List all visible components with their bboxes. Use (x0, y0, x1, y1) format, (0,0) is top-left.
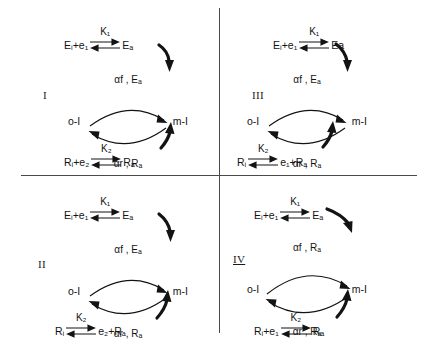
bottom-reaction-lhs: Rᵢ+e₁ (254, 326, 279, 337)
bottom-reaction-I: Rᵢ+e₂K₂Rₐ (64, 155, 135, 169)
rate-constant-label: K₂ (101, 144, 112, 154)
bottom-reaction-III: RᵢK₂e₁+Rₐ (237, 155, 307, 169)
cycle-I: αf , Eₐ o-I m-I αr , Rₐ (68, 78, 188, 164)
equilibrium-arrow-icon: K₂ (90, 155, 122, 169)
equilibrium-arrow-icon: K₂ (280, 324, 312, 338)
quadrant-IV: IV Eᵢ+e₁K₁Eₐ αf , Rₐ o-I m-I αr , Rₐ (219, 176, 437, 351)
bottom-reaction-rhs: e₁+Rₐ (280, 157, 307, 168)
equilibrium-arrow-icon: K₂ (65, 324, 97, 338)
bottom-reaction-rhs: e₂+Rₐ (98, 326, 126, 337)
bottom-reaction-IV: Rᵢ+e₁K₂Rₐ (254, 324, 324, 338)
bottom-reaction-lhs: Rᵢ+e₂ (64, 157, 89, 168)
bottom-reaction-lhs: Rᵢ (237, 157, 246, 168)
figure-canvas: I Eᵢ+e₁K₁Eₐ αf , Eₐ o-I m-I αr , Rₐ (0, 0, 437, 351)
bottom-reaction-lhs: Rᵢ (55, 326, 64, 337)
cycle-arcs-icon (247, 246, 367, 332)
equilibrium-arrow-icon: K₂ (247, 155, 279, 169)
quadrant-II: II Eᵢ+e₁K₁Eₐ αf , Eₐ o-I m-I αr , Rₐ (0, 176, 219, 351)
quadrant-I: I Eᵢ+e₁K₁Eₐ αf , Eₐ o-I m-I αr , Rₐ (0, 0, 219, 175)
bottom-reaction-rhs: Rₐ (123, 157, 135, 168)
cycle-arcs-icon (68, 78, 188, 164)
rate-constant-label: K₂ (76, 313, 87, 323)
cycle-IV: αf , Rₐ o-I m-I αr , Rₐ (247, 246, 367, 332)
bottom-reaction-II: RᵢK₂e₂+Rₐ (55, 324, 126, 338)
rate-constant-label: K₂ (290, 313, 301, 323)
rate-constant-label: K₂ (258, 144, 269, 154)
bottom-reaction-rhs: Rₐ (313, 326, 325, 337)
quadrant-III: III Eᵢ+e₁K₁Ea αf , Eₐ o-I m-I αr , Rₐ (219, 0, 437, 175)
